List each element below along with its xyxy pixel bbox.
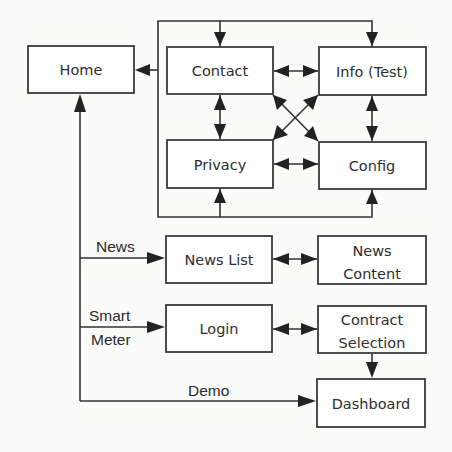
edge-label-meter: Meter: [91, 331, 131, 348]
arrow-head-icon: [366, 32, 378, 46]
arrow-head-icon: [214, 32, 226, 46]
node-home: Home: [28, 46, 134, 93]
edge-newslist-newscontent: [273, 253, 317, 265]
node-info-test: Info (Test): [319, 47, 426, 95]
navigation-diagram: News Smart Meter Demo Home Contact Info …: [0, 0, 452, 452]
arrow-head-icon: [135, 64, 150, 76]
svg-text:Contact: Contact: [192, 63, 249, 79]
node-config: Config: [319, 142, 426, 189]
node-news-list: News List: [166, 236, 272, 283]
svg-text:Login: Login: [199, 321, 238, 337]
node-login: Login: [166, 305, 272, 352]
edge-contact-info: [274, 65, 318, 77]
svg-text:Home: Home: [60, 62, 103, 78]
node-privacy: Privacy: [167, 140, 273, 188]
svg-text:Info (Test): Info (Test): [336, 64, 408, 80]
edge-login-contract: [273, 323, 317, 335]
edge-contract-dashboard: [366, 354, 378, 378]
svg-text:Dashboard: Dashboard: [332, 396, 411, 412]
node-contract-selection: Contract Selection: [318, 306, 426, 353]
arrow-head-icon: [366, 190, 378, 204]
svg-text:Contract: Contract: [341, 312, 404, 328]
home-trunk: [74, 94, 86, 401]
edge-contact-privacy: [214, 95, 226, 139]
edge-info-config: [366, 96, 378, 141]
svg-text:News List: News List: [184, 252, 253, 268]
node-contact: Contact: [167, 47, 273, 94]
svg-text:News: News: [352, 243, 391, 259]
node-news-content: News Content: [318, 236, 426, 284]
edge-privacy-config: [274, 158, 318, 170]
svg-text:Privacy: Privacy: [194, 157, 247, 173]
node-dashboard: Dashboard: [317, 379, 425, 427]
edge-label-news: News: [96, 238, 135, 255]
edge-group-to-home: [135, 64, 158, 76]
edge-label-demo: Demo: [188, 382, 229, 399]
edge-label-smart: Smart: [89, 307, 131, 324]
svg-text:Content: Content: [343, 266, 401, 282]
arrow-head-icon: [214, 189, 226, 203]
svg-text:Selection: Selection: [339, 335, 406, 351]
arrow-head-icon: [74, 94, 86, 112]
svg-text:Config: Config: [349, 158, 396, 174]
